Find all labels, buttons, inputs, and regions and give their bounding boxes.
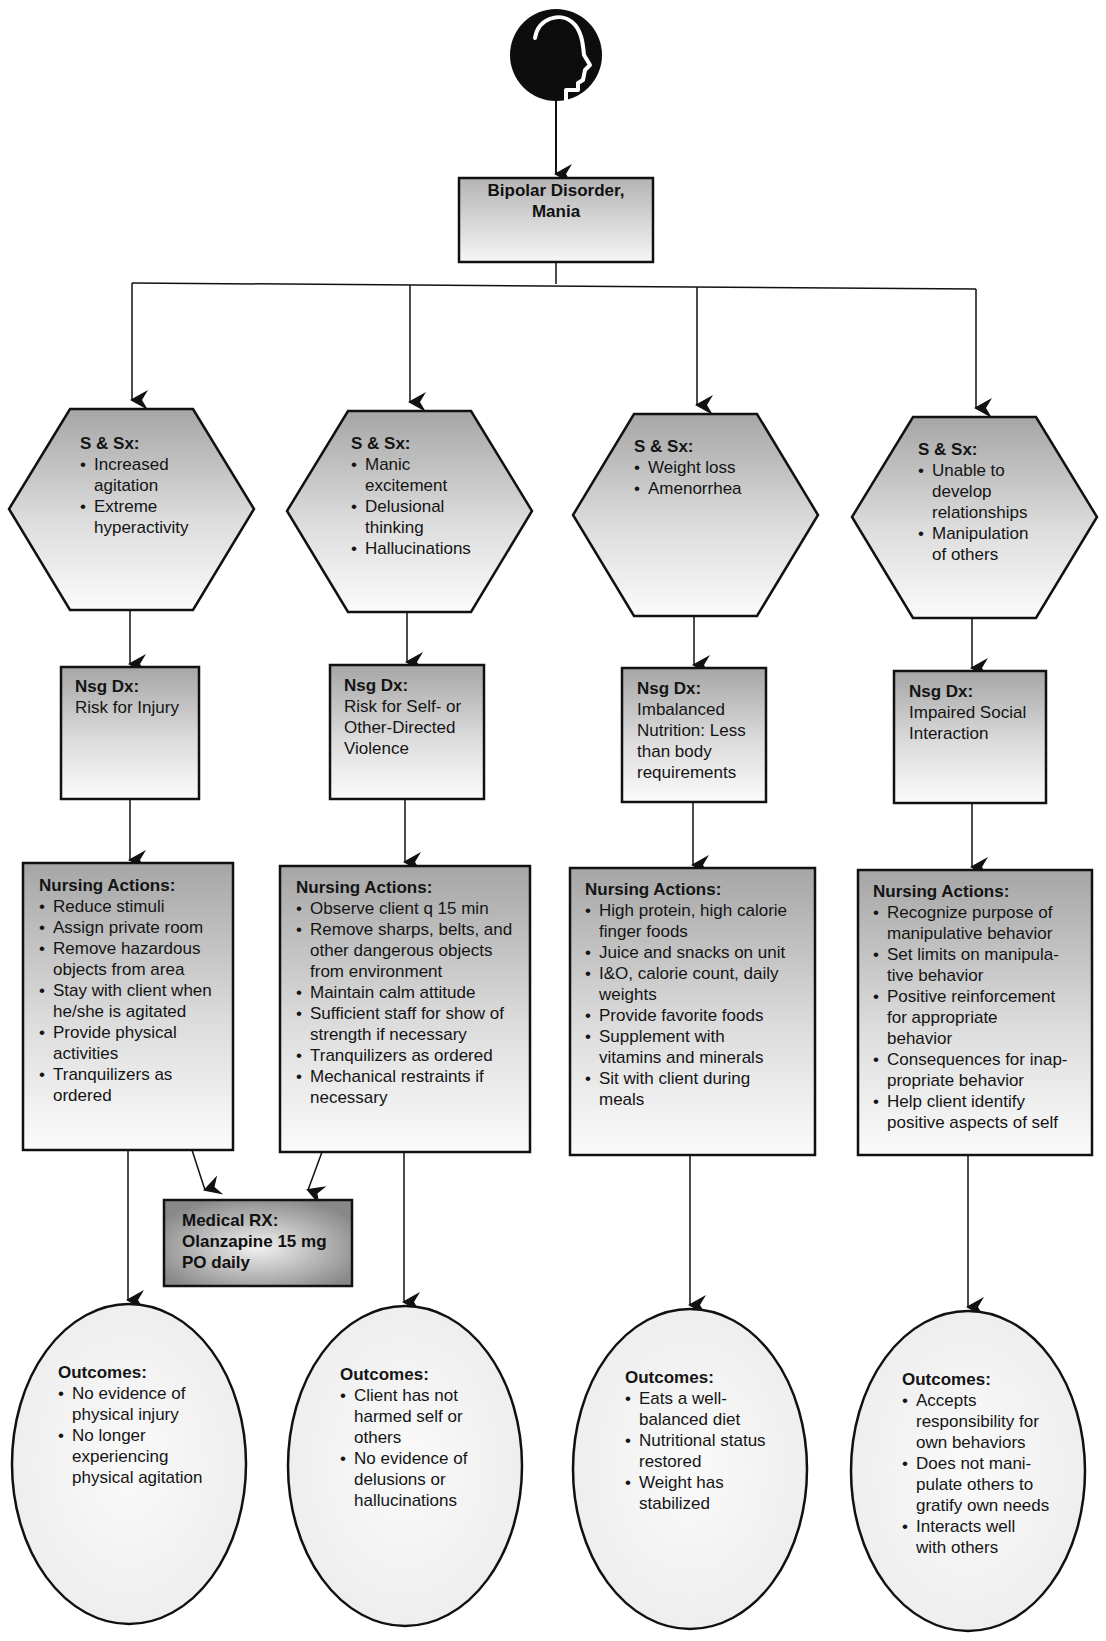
sx-node-2: S & Sx: Manic excitement Delusional thin… xyxy=(351,433,501,559)
outcomes-node-3: Outcomes: Eats a well-balanced diet Nutr… xyxy=(625,1367,785,1514)
outcome-item: Does not mani-pulate others to gratify o… xyxy=(902,1453,1066,1516)
action-item: Tranquilizers as ordered xyxy=(39,1064,193,1106)
action-item: Set limits on manipula-tive behavior xyxy=(873,944,1072,986)
actions-node-3: Nursing Actions: High protein, high calo… xyxy=(585,879,813,1110)
dx-node-1: Nsg Dx: Risk for Injury xyxy=(75,676,200,718)
sx-item: Weight loss xyxy=(634,457,784,478)
medical-rx-node: Medical RX: Olanzapine 15 mg PO daily xyxy=(182,1210,362,1273)
actions-node-2: Nursing Actions: Observe client q 15 min… xyxy=(296,877,528,1108)
actions-node-4: Nursing Actions: Recognize purpose of ma… xyxy=(873,881,1089,1133)
outcomes-node-4: Outcomes: Accepts responsibility for own… xyxy=(902,1369,1062,1558)
action-item: Recognize purpose of manipulative behavi… xyxy=(873,902,1089,944)
sx-node-4: S & Sx: Unable to develop relationships … xyxy=(918,439,1068,565)
action-item: Reduce stimuli xyxy=(39,896,231,917)
action-item: Assign private room xyxy=(39,917,231,938)
action-item: Consequences for inap-propriate behavior xyxy=(873,1049,1085,1091)
action-item: Remove hazardous objects from area xyxy=(39,938,231,980)
sx-item: Extreme hyperactivity xyxy=(80,496,214,538)
outcome-item: Nutritional status restored xyxy=(625,1430,784,1472)
sx-node-3: S & Sx: Weight loss Amenorrhea xyxy=(634,436,784,499)
action-item: Juice and snacks on unit xyxy=(585,942,813,963)
sx-item: Hallucinations xyxy=(351,538,501,559)
root-title: Bipolar Disorder, Mania xyxy=(458,180,654,222)
outcome-item: Weight has stabilized xyxy=(625,1472,744,1514)
action-item: Maintain calm attitude xyxy=(296,982,528,1003)
outcome-item: Eats a well-balanced diet xyxy=(625,1388,744,1430)
action-item: Provide physical activities xyxy=(39,1022,193,1064)
action-item: High protein, high calorie finger foods xyxy=(585,900,813,942)
action-item: Supplement with vitamins and minerals xyxy=(585,1026,779,1068)
dx-node-2: Nsg Dx: Risk for Self- or Other-Directed… xyxy=(344,675,484,759)
sx-item: Unable to develop relationships xyxy=(918,460,1047,523)
action-item: I&O, calorie count, daily weights xyxy=(585,963,813,1005)
outcome-item: No evidence of physical injury xyxy=(58,1383,202,1425)
outcome-item: Interacts well with others xyxy=(902,1516,1031,1558)
outcome-item: Client has not harmed self or others xyxy=(340,1385,479,1448)
action-item: Help client identify positive aspects of… xyxy=(873,1091,1072,1133)
outcomes-node-2: Outcomes: Client has not harmed self or … xyxy=(340,1364,490,1511)
sx-item: Amenorrhea xyxy=(634,478,784,499)
action-item: Remove sharps, belts, and other dangerou… xyxy=(296,919,515,982)
sx-item: Increased agitation xyxy=(80,454,189,496)
branch-bus-line xyxy=(132,283,976,289)
action-item: Positive reinforcement for appropriate b… xyxy=(873,986,1067,1049)
head-profile-icon xyxy=(510,9,602,101)
action-item: Stay with client when he/she is agitated xyxy=(39,980,231,1022)
dx-node-3: Nsg Dx: Imbalanced Nutrition: Less than … xyxy=(637,678,767,783)
action-item: Provide favorite foods xyxy=(585,1005,813,1026)
outcome-item: No longer experiencing physical agitatio… xyxy=(58,1425,222,1488)
action-item: Tranquilizers as ordered xyxy=(296,1045,528,1066)
outcomes-node-1: Outcomes: No evidence of physical injury… xyxy=(58,1362,218,1488)
actions-node-1: Nursing Actions: Reduce stimuli Assign p… xyxy=(39,875,231,1106)
action-item: Sufficient staff for show of strength if… xyxy=(296,1003,528,1045)
sx-item: Manipulation of others xyxy=(918,523,1047,565)
sx-item: Manic excitement xyxy=(351,454,465,496)
sx-item: Delusional thinking xyxy=(351,496,465,538)
outcome-item: Accepts responsibility for own behaviors xyxy=(902,1390,1046,1453)
sx-node-1: S & Sx: Increased agitation Extreme hype… xyxy=(80,433,250,538)
outcome-item: No evidence of delusions or hallucinatio… xyxy=(340,1448,479,1511)
dx-node-4: Nsg Dx: Impaired Social Interaction xyxy=(909,681,1049,744)
action-item: Mechanical restraints if necessary xyxy=(296,1066,490,1108)
action-item: Observe client q 15 min xyxy=(296,898,528,919)
action-item: Sit with client during meals xyxy=(585,1068,779,1110)
